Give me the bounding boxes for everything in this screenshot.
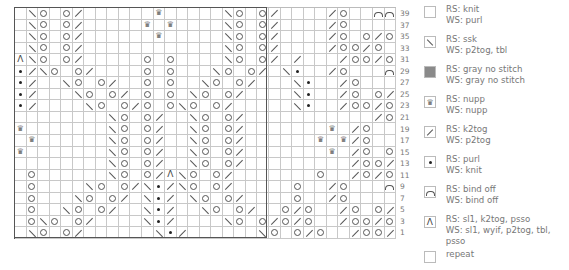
yarn-over-icon [363,171,370,178]
bind-off-cell [385,66,397,78]
ssk-icon [109,114,116,121]
yarn-over-icon [386,102,393,109]
k2tog-icon [340,103,347,110]
ssk-icon [190,114,197,121]
k2tog-icon [259,68,266,75]
knit-cell [84,31,96,43]
k2tog-cell [338,216,350,228]
yarn-over-icon [213,183,220,190]
knit-cell [373,20,385,32]
nupp-icon: ♛ [17,148,24,156]
yo-cell [373,43,385,55]
yo-cell [61,227,73,239]
yo-cell [200,89,212,101]
knit-cell [61,135,73,147]
knit-cell [15,31,27,43]
knit-cell [154,100,166,112]
knit-cell [211,43,223,55]
knit-cell [304,170,316,182]
k2tog-cell [234,147,246,159]
knit-cell [361,66,373,78]
ssk-cell [211,66,223,78]
k2tog-cell [223,100,235,112]
knit-cell [73,135,85,147]
yarn-over-icon [121,137,128,144]
yarn-over-icon [202,160,209,167]
nupp-icon: ♛ [144,21,151,29]
k2tog-cell [234,158,246,170]
yarn-over-icon [144,79,151,86]
k2tog-cell [269,43,281,55]
ssk-cell [84,181,96,193]
k2tog-cell [327,31,339,43]
yo-cell [338,8,350,20]
yo-cell [211,100,223,112]
k2tog-icon [167,195,174,202]
knit-cell [27,112,39,124]
k2tog-cell [107,204,119,216]
knit-cell [107,216,119,228]
yarn-over-icon [63,56,70,63]
knit-cell [269,112,281,124]
yo-cell [50,66,62,78]
knit-cell [84,77,96,89]
knit-cell [281,158,293,170]
yo-cell [27,204,39,216]
k2tog-cell [234,193,246,205]
knit-cell [96,31,108,43]
knit-cell [292,8,304,20]
legend-item-nupp: ♛RS: nuppWS: nupp [424,94,487,116]
knit-cell [15,135,27,147]
yarn-over-icon [236,218,243,225]
knit-cell [119,54,131,66]
yo-cell [223,158,235,170]
knit-cell [327,77,339,89]
yo-cell [361,216,373,228]
ssk-cell [27,227,39,239]
knit-cell [84,158,96,170]
knit-cell [200,43,212,55]
yo-cell [200,193,212,205]
yo-cell [257,8,269,20]
row-number: 29 [400,67,420,76]
row-number: 5 [400,205,420,214]
purl-icon [19,93,22,96]
k2tog-cell [27,100,39,112]
purl-cell [15,66,27,78]
yo-cell [165,66,177,78]
k2tog-cell [292,216,304,228]
k2tog-icon [329,22,336,29]
yo-cell [200,123,212,135]
k2tog-icon [386,91,393,98]
ssk-cell [223,43,235,55]
yo-cell [257,20,269,32]
yo-cell [96,77,108,89]
knit-cell [130,204,142,216]
knit-cell [304,43,316,55]
knit-cell [269,123,281,135]
knit-cell [96,135,108,147]
knit-cell [142,227,154,239]
knit-cell [257,89,269,101]
knit-cell [315,181,327,193]
k2tog-cell [385,227,397,239]
knit-cell [269,89,281,101]
ssk-cell [292,89,304,101]
yo-cell [361,31,373,43]
k2tog-cell [154,123,166,135]
k2tog-cell [165,193,177,205]
yo-cell [234,43,246,55]
k2tog-icon [28,68,35,75]
knit-cell [177,158,189,170]
yarn-over-icon [144,114,151,121]
knit-cell [188,43,200,55]
knit-cell [315,31,327,43]
knit-cell [350,112,362,124]
yarn-over-icon [340,68,347,75]
knit-cell [327,135,339,147]
knit-cell [338,112,350,124]
knit-cell [281,54,293,66]
legend-swatch [424,126,436,138]
knit-cell [327,100,339,112]
k2tog-icon [271,218,278,225]
